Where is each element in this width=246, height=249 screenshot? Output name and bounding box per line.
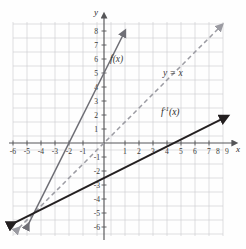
x-tick-label: -6 [10,147,17,156]
label-y-equals-x: y = x [162,68,183,78]
x-tick-label: 1 [123,147,127,156]
y-tick-label: 5 [94,69,98,78]
x-tick-label: 8 [216,147,220,156]
y-tick-label: 7 [94,41,98,50]
y-tick-label: 6 [94,55,98,64]
y-tick-label: -4 [94,195,101,204]
y-tick-label: 3 [94,97,98,106]
graph-figure: -6 -5 -4 -3 -2 -1 1 2 3 4 5 6 7 8 9 8 7 … [0,0,246,249]
x-tick-label: 4 [165,147,169,156]
y-tick-label: 8 [94,27,98,36]
y-tick-label: -2 [94,167,101,176]
y-tick-label: -5 [94,209,101,218]
y-tick-label: -6 [94,223,101,232]
x-tick-label: 5 [179,147,183,156]
x-tick-label: 6 [193,147,197,156]
label-f-of-x: f(x) [110,54,123,65]
x-tick-label: 7 [207,147,211,156]
x-tick-label: -4 [38,147,45,156]
x-tick-label: -3 [52,147,59,156]
coordinate-plane: -6 -5 -4 -3 -2 -1 1 2 3 4 5 6 7 8 9 8 7 … [0,0,246,249]
x-tick-label: -5 [24,147,31,156]
x-tick-label: 9 [225,147,229,156]
x-axis-label: x [235,144,240,154]
y-tick-labels: 8 7 6 5 4 3 2 1 -1 -2 -3 -4 -5 -6 [94,27,101,232]
label-f-inverse-arg: (x) [169,107,180,118]
label-f-inverse-of-x: f-1(x) [161,105,180,118]
y-axis-label: y [93,7,98,17]
x-tick-label: -1 [80,147,87,156]
x-tick-labels: -6 -5 -4 -3 -2 -1 1 2 3 4 5 6 7 8 9 [10,147,229,156]
y-tick-label: -1 [94,153,101,162]
y-tick-label: 1 [94,125,98,134]
y-tick-label: 2 [94,111,98,120]
x-tick-label: 2 [137,147,141,156]
